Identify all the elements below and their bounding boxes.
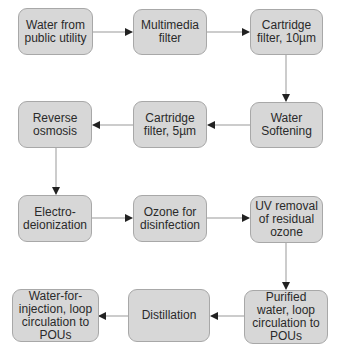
node-distillation: Distillation [128, 289, 210, 342]
node-uv-removal: UV removal of residual ozone [250, 196, 323, 243]
node-purified-water: Purified water, loop circulation to POUs [244, 290, 328, 344]
node-reverse-osmosis: Reverse osmosis [18, 101, 92, 148]
node-multimedia-filter: Multimedia filter [133, 9, 207, 55]
node-water-from-public-utility: Water from public utility [18, 8, 93, 55]
node-cartridge-filter-10um: Cartridge filter, 10µm [250, 9, 323, 55]
node-ozone-for-disinfection: Ozone for disinfection [133, 195, 207, 242]
node-electro-deionization: Electro-deionization [18, 195, 92, 242]
node-water-for-injection: Water-for-injection, loop circulation to… [12, 289, 99, 342]
node-cartridge-filter-5um: Cartridge filter, 5µm [133, 101, 207, 148]
node-water-softening: Water Softening [250, 102, 323, 148]
